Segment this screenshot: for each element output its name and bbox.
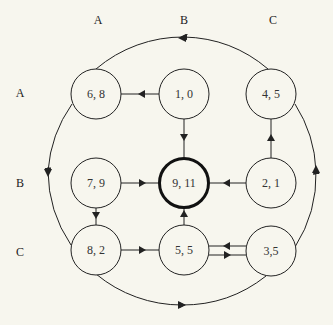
arrow-right-icon bbox=[224, 251, 231, 259]
arrow-left-icon bbox=[223, 179, 230, 187]
arrow-right-icon bbox=[139, 179, 146, 187]
node-label: 5, 5 bbox=[175, 243, 193, 257]
payoff-graph-diagram: A B C A B C bbox=[0, 0, 333, 325]
outer-arc-left-bottom bbox=[48, 171, 71, 245]
outer-arc-left-top bbox=[48, 104, 72, 171]
node-c-b: 5, 5 bbox=[159, 225, 209, 275]
node-label: 9, 11 bbox=[172, 176, 196, 190]
nodes: 6, 8 1, 0 4, 5 7, 9 9, 11 2, 1 8, 2 5, bbox=[71, 69, 296, 276]
column-label-a: A bbox=[94, 13, 103, 27]
node-a-c: 4, 5 bbox=[246, 69, 296, 119]
arrow-up-icon bbox=[180, 210, 188, 217]
node-label: 3,5 bbox=[264, 244, 279, 258]
node-a-b: 1, 0 bbox=[159, 69, 209, 119]
outer-arc-top-right bbox=[184, 37, 268, 69]
outer-arc-top-left bbox=[96, 37, 184, 69]
column-label-c: C bbox=[269, 13, 277, 27]
node-b-c: 2, 1 bbox=[246, 158, 296, 208]
node-label: 8, 2 bbox=[87, 243, 105, 257]
arrow-left-icon bbox=[223, 242, 230, 250]
arrow-left-icon bbox=[178, 34, 186, 42]
outer-arc-bottom-right bbox=[182, 276, 266, 305]
arrow-down-icon bbox=[92, 212, 100, 219]
outer-arc-right-bottom bbox=[295, 171, 316, 247]
column-label-b: B bbox=[180, 13, 188, 27]
node-c-c: 3,5 bbox=[246, 226, 296, 276]
arrow-up-icon bbox=[267, 134, 275, 141]
arrow-right-icon bbox=[139, 246, 146, 254]
outer-arc-right-top bbox=[295, 104, 316, 171]
arrow-down-icon bbox=[180, 134, 188, 141]
row-label-b: B bbox=[16, 176, 24, 190]
node-label: 7, 9 bbox=[87, 176, 105, 190]
node-label: 6, 8 bbox=[87, 87, 105, 101]
node-a-a: 6, 8 bbox=[71, 69, 121, 119]
arrow-down-icon bbox=[44, 169, 52, 177]
row-label-a: A bbox=[16, 86, 25, 100]
node-b-a: 7, 9 bbox=[71, 158, 121, 208]
arrow-right-icon bbox=[178, 301, 186, 309]
node-label: 1, 0 bbox=[175, 87, 193, 101]
node-label: 4, 5 bbox=[262, 87, 280, 101]
node-b-b-highlighted: 9, 11 bbox=[160, 159, 209, 208]
outer-arc-bottom-left bbox=[96, 274, 182, 305]
node-label: 2, 1 bbox=[262, 176, 280, 190]
node-c-a: 8, 2 bbox=[71, 225, 121, 275]
row-label-c: C bbox=[16, 245, 24, 259]
arrow-up-icon bbox=[312, 165, 320, 173]
arrow-left-icon bbox=[138, 90, 145, 98]
